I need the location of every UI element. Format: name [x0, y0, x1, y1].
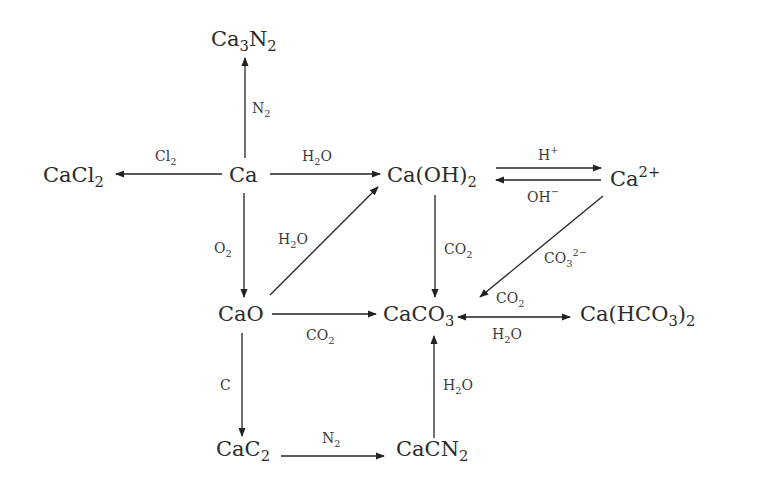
reagent-n2-label: N2 [252, 100, 270, 119]
reagent-h2o-label-cacn2: H2O [443, 377, 473, 396]
reagent-oh-minus-label: OH− [527, 186, 559, 205]
node-cacn2: CaCN2 [396, 437, 468, 464]
reagent-h-plus-label: H+ [538, 144, 558, 163]
reagent-n2-label-cac2: N2 [322, 430, 340, 449]
reagent-c-label: C [220, 377, 231, 393]
reagent-h2o-label-equilibrium: H2O [492, 326, 522, 345]
reagent-h2o-label-ca: H2O [302, 148, 332, 167]
calcium-conversion-diagram: Ca3N2 CaCl2 Ca Ca(OH)2 Ca2+ CaO CaCO3 Ca… [0, 0, 767, 504]
reagent-co2-label-equilibrium: CO2 [496, 290, 524, 309]
reagent-co2-label-caoh2: CO2 [444, 241, 472, 260]
reagent-carbonate-label: CO32− [544, 247, 587, 269]
reagent-o2-label: O2 [214, 240, 232, 259]
node-cao: CaO [218, 302, 264, 326]
node-caco3: CaCO3 [383, 302, 454, 329]
reagent-cl2-label: Cl2 [155, 148, 176, 167]
reagent-co2-label-cao: CO2 [306, 327, 334, 346]
node-calcium-ion: Ca2+ [610, 163, 660, 191]
node-ca3n2: Ca3N2 [211, 27, 277, 54]
node-calcium-hydroxide: Ca(OH)2 [387, 163, 477, 190]
node-cacl2: CaCl2 [43, 163, 104, 190]
node-calcium-bicarbonate: Ca(HCO3)2 [580, 302, 695, 329]
reagent-h2o-label-cao: H2O [278, 231, 308, 250]
node-cac2: CaC2 [216, 437, 270, 464]
node-ca: Ca [229, 163, 258, 187]
